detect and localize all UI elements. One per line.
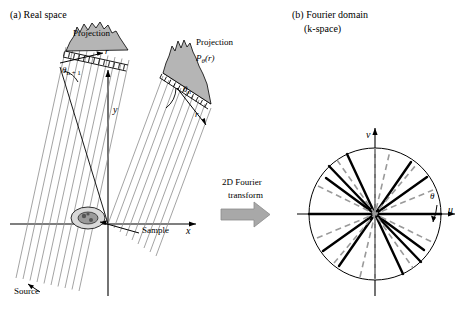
panel-b-title-line1: (b) Fourier domain [292, 10, 368, 21]
y-axis-label: y [113, 105, 117, 116]
x-axis-label: x [186, 226, 190, 237]
sample-label: Sample [142, 226, 169, 235]
p-theta-r-label: Pθ(r) [196, 54, 214, 65]
fourier-transform-arrow [221, 202, 270, 227]
beam-left [16, 47, 129, 291]
theta-n-label: θn [183, 85, 191, 96]
sample-blob [71, 207, 105, 229]
kspace-theta-label: θ [430, 192, 434, 201]
panel-b-title-line2: (k-space) [304, 24, 341, 35]
r-label-left: r [105, 47, 109, 56]
u-axis-label: u [448, 205, 453, 216]
theta-n1-label: θn + 1 [62, 66, 81, 77]
figure-canvas [0, 0, 471, 320]
transform-caption-line2: transform [228, 191, 263, 200]
projection-label-right: Projection [196, 38, 233, 47]
transform-caption-line1: 2D Fourier [222, 178, 262, 187]
sample-pointer [100, 220, 139, 233]
figure-root: (a) Real space (b) Fourier domain (k-spa… [0, 0, 471, 320]
projection-label-left: Projection [73, 29, 110, 38]
source-label: Source [14, 287, 39, 296]
v-axis-label: v [366, 130, 370, 141]
r-label-right: r [195, 110, 199, 119]
panel-a-title: (a) Real space [10, 10, 67, 21]
